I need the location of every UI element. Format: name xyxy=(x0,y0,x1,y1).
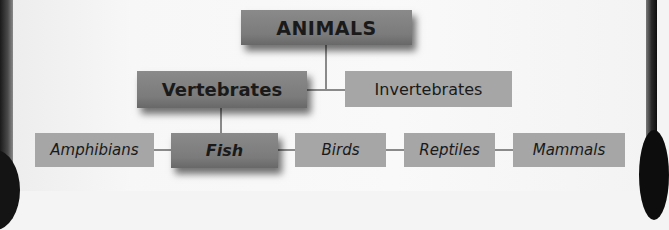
node-invertebrates-label: Invertebrates xyxy=(375,80,483,99)
node-mammals: Mammals xyxy=(513,133,625,167)
node-animals-label: ANIMALS xyxy=(276,17,377,39)
connector-vert-invert-horizontal xyxy=(307,89,345,91)
node-amphibians-label: Amphibians xyxy=(50,141,138,159)
node-fish-label: Fish xyxy=(206,141,243,160)
connector-vertebrates-fish xyxy=(220,108,222,133)
node-birds: Birds xyxy=(295,133,386,167)
connector-birds-reptiles xyxy=(386,149,404,151)
node-mammals-label: Mammals xyxy=(533,141,606,159)
connector-fish-birds xyxy=(278,149,295,151)
node-invertebrates: Invertebrates xyxy=(345,71,512,107)
node-amphibians: Amphibians xyxy=(35,133,154,167)
connector-animals-vertical xyxy=(325,45,327,91)
node-fish: Fish xyxy=(171,133,278,168)
node-vertebrates-label: Vertebrates xyxy=(162,79,282,100)
node-reptiles: Reptiles xyxy=(404,133,495,167)
node-vertebrates: Vertebrates xyxy=(137,71,307,108)
book-edge-right-curve xyxy=(639,130,669,220)
connector-reptiles-mammals xyxy=(495,149,513,151)
node-reptiles-label: Reptiles xyxy=(419,141,479,159)
node-animals: ANIMALS xyxy=(241,10,412,45)
connector-amphibians-fish xyxy=(154,149,171,151)
node-birds-label: Birds xyxy=(322,141,360,159)
